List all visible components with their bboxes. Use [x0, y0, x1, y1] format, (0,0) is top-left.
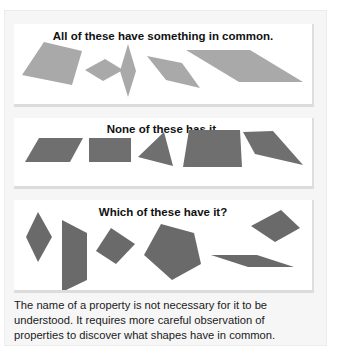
shape-rhombus-right — [251, 210, 300, 242]
shape-pentagon — [144, 224, 201, 280]
card-examples: All of these have something in common. — [14, 24, 314, 107]
card-question: Which of these have it? — [14, 200, 314, 293]
shapes-question — [14, 200, 312, 290]
shape-square-tilted — [96, 228, 135, 264]
caption-text: The name of a property is not necessary … — [14, 298, 314, 343]
shape-rectangle — [89, 138, 131, 162]
shape-trapezoid-vertical — [62, 220, 87, 290]
shape-rhombus-vertical — [26, 212, 52, 262]
shapes-examples — [14, 24, 312, 104]
shape-parallelogram — [25, 138, 83, 162]
shape-rhombus-medium — [147, 56, 200, 88]
shape-parallelogram-thin — [211, 255, 294, 267]
shape-trapezoid — [183, 130, 242, 167]
shape-parallelogram-wide — [186, 50, 303, 82]
shape-square-tilted — [22, 42, 82, 85]
shape-rhombus-tall — [120, 44, 136, 97]
shape-triangle — [138, 132, 173, 166]
shape-quadrilateral — [243, 131, 303, 165]
card-non-examples: None of these has it. — [14, 118, 314, 189]
shape-rhombus-small — [85, 59, 123, 81]
shapes-non-examples — [14, 118, 312, 186]
